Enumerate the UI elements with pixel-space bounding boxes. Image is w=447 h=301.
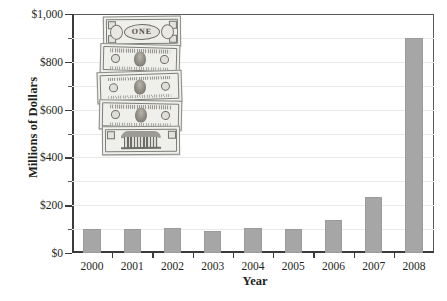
x-axis-label: 2001 [121,260,144,272]
bar-chart: Millions of Dollars Year $0$200$400$600$… [0,0,447,301]
x-axis-label: 2006 [322,260,345,272]
x-axis-label: 2000 [81,260,104,272]
bar [285,229,302,253]
y-axis-label: $1,000 [31,8,63,20]
note-corner [106,131,114,139]
bar [405,38,422,253]
gridline-minor [72,181,434,182]
y-tick-minor [68,134,73,135]
x-axis-label: 2002 [161,260,184,272]
y-axis-label: $0 [52,247,64,259]
bar [204,231,221,253]
x-tick [273,253,274,258]
y-tick-minor [68,181,73,182]
x-tick [193,253,194,258]
y-tick-major [65,205,72,206]
note-one-text: ONE [132,27,152,36]
x-axis-label: 2003 [201,260,224,272]
note-corner [167,130,175,138]
building-base [121,147,161,149]
y-tick-minor [68,86,73,87]
y-tick-major [65,14,72,15]
bar [124,229,141,253]
bar [83,229,100,253]
y-tick-major [65,253,72,254]
x-axis-label: 2004 [242,260,265,272]
x-tick [233,253,234,258]
y-tick-major [65,62,72,63]
x-axis-label: 2008 [402,260,425,272]
gridline-major [72,157,434,158]
y-axis-label: $200 [40,199,63,211]
x-tick [152,253,153,258]
y-axis-label: $400 [40,151,63,163]
stack-of-us-banknotes-photo: ONE [97,16,181,153]
banknote-building-reverse [102,126,180,156]
x-tick [354,253,355,258]
x-tick [313,253,314,258]
x-axis-label: 2005 [282,260,305,272]
x-axis-title: Year [70,274,440,289]
note-ornament [161,24,174,39]
y-tick-major [65,157,72,158]
x-axis-label: 2007 [362,260,385,272]
bar [164,228,181,253]
note-ornament [110,24,123,39]
y-axis-label: $600 [40,104,63,116]
note-portrait [134,107,146,122]
x-tick [112,253,113,258]
bar [325,220,342,253]
note-building-vignette [121,131,161,149]
y-tick-minor [68,229,73,230]
bar [244,228,261,253]
note-portrait [133,79,145,94]
x-tick [394,253,395,258]
y-axis-label: $800 [40,56,63,68]
y-tick-minor [68,38,73,39]
y-axis-title: Millions of Dollars [26,33,41,223]
note-portrait [134,51,146,66]
y-tick-major [65,110,72,111]
bar [365,197,382,253]
